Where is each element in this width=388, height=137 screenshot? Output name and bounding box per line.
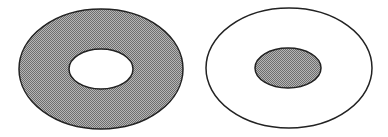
unshaded-ellipse-with-shaded-disk — [206, 8, 372, 128]
shaded-annulus — [19, 9, 183, 129]
diagram-canvas — [0, 0, 388, 137]
inner-disk — [255, 48, 321, 88]
